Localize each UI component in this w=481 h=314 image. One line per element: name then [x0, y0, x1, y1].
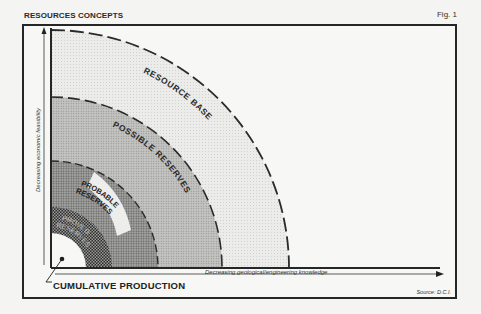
x-axis-label: Decreasing geological/engineering knowle…: [205, 269, 327, 275]
source-credit: Source: D.C.I.: [416, 289, 451, 295]
resource-quadrant-diagram: RESOURCE BASE POSSIBLE RESERVES PROBABLE…: [0, 0, 481, 314]
cumulative-production-label: CUMULATIVE PRODUCTION: [53, 280, 185, 291]
y-axis-label: Decreasing economic feasibility: [35, 108, 41, 192]
y-axis-arrowhead-icon: [42, 27, 47, 34]
x-axis-arrowhead-icon: [436, 271, 444, 277]
